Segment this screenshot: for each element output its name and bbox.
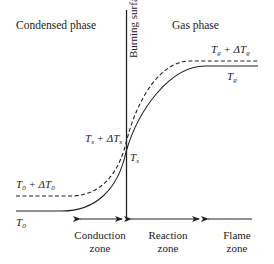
reaction-zone-label: Reactionzone bbox=[140, 229, 196, 255]
burning-surface-label: Burning surface bbox=[128, 0, 139, 58]
gas-phase-label: Gas phase bbox=[172, 20, 219, 32]
ts-label: Ts bbox=[130, 152, 139, 165]
tg-label: Tg bbox=[227, 71, 237, 84]
ts-plus-delta-label: Ts + ΔTs bbox=[85, 133, 122, 146]
conduction-zone-label: Conductionzone bbox=[72, 229, 128, 255]
t0-plus-delta-label: T0 + ΔT0 bbox=[16, 179, 55, 192]
condensed-phase-label: Condensed phase bbox=[16, 20, 96, 32]
tg-plus-delta-label: Tg + ΔTg bbox=[211, 44, 250, 57]
flame-zone-label: Flamezone bbox=[213, 229, 261, 255]
t0-label: T0 bbox=[16, 217, 26, 230]
perturbed-temperature-profile-curve bbox=[16, 61, 258, 196]
